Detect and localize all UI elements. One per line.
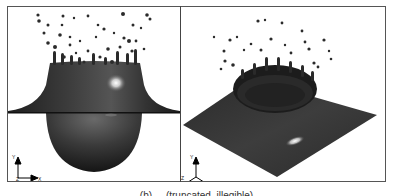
isometric-view-image: Y Z X <box>181 7 385 181</box>
side-view-image: Y Z X <box>8 7 180 181</box>
axis-label-y: Y <box>190 154 194 160</box>
figure-caption: (b) ... (truncated, illegible) <box>0 190 393 196</box>
axis-label-z: Z <box>181 175 184 181</box>
panel-side-view: Y Z X <box>8 7 180 181</box>
axis-label-x: X <box>38 176 42 181</box>
axis-label-z: Z <box>16 176 19 181</box>
panel-isometric-view: Y Z X <box>181 7 385 181</box>
axis-label-y: Y <box>12 154 16 160</box>
axis-triad-isometric <box>181 157 211 181</box>
